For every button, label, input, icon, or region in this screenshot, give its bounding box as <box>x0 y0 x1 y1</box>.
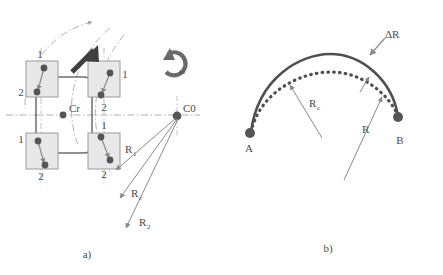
wheel-point-2-marker <box>98 92 105 99</box>
wheel-point-2-label: 2 <box>18 86 24 98</box>
radius-outer-label: R 2 <box>139 216 151 231</box>
radius-inner-label: R 1 <box>125 143 137 158</box>
arc-commanded-subscript: c <box>317 104 320 112</box>
wheel-front-left: 1 2 <box>18 48 58 98</box>
wheel-point-2-label: 2 <box>38 170 44 182</box>
wheel-point-1-marker <box>41 65 48 72</box>
arc-actual-label: R <box>362 123 370 135</box>
wheel-point-2-label: 2 <box>101 168 107 180</box>
arc-commanded-label: R c <box>309 97 320 112</box>
wheel-point-1-marker <box>107 70 114 77</box>
radius-center-letter: R <box>131 187 139 199</box>
arc-commanded-letter: R <box>309 97 317 109</box>
wheel-point-1-label: 1 <box>122 68 128 80</box>
radius-inner-letter: R <box>125 143 133 155</box>
wheel-box <box>88 61 120 97</box>
angular-velocity-label: ω <box>179 66 185 76</box>
point-b-marker <box>393 112 403 122</box>
radius-outer-letter: R <box>139 216 147 228</box>
wheel-point-2-marker <box>107 157 114 164</box>
center-of-rotation-label: C0 <box>183 102 196 114</box>
wheel-point-2-marker <box>42 162 49 169</box>
radius-outer-line <box>126 119 178 228</box>
technical-diagram-svg: 1 2 1 2 1 2 <box>0 0 443 275</box>
point-b-label: B <box>396 134 403 146</box>
vehicle-center-label: Cr <box>69 102 80 114</box>
panel-b: A B R c R ΔR b) <box>245 28 404 255</box>
point-a-label: A <box>245 142 253 154</box>
arc-actual-path <box>251 54 398 132</box>
radius-center-label: R c <box>131 187 142 202</box>
radius-inner-subscript: 1 <box>133 150 137 158</box>
wheel-point-1-label: 1 <box>18 133 24 145</box>
wheel-point-1-label: 1 <box>37 48 43 60</box>
wheel-rear-left: 1 2 <box>18 133 58 182</box>
wheel-rear-right: 1 2 <box>88 119 120 180</box>
vehicle-center-marker <box>60 112 67 119</box>
arc-actual-leader <box>344 97 382 180</box>
panel-a: 1 2 1 2 1 2 <box>6 22 200 261</box>
radius-delta-label: ΔR <box>385 28 400 40</box>
radius-center-subscript: c <box>139 194 142 202</box>
wheel-point-2-label: 2 <box>101 101 107 113</box>
radius-vectors <box>116 118 178 228</box>
wheel-point-2-marker <box>34 89 41 96</box>
point-a-marker <box>245 128 255 138</box>
radius-delta-leader <box>370 38 385 55</box>
radius-outer-subscript: 2 <box>147 223 151 231</box>
panel-a-caption: a) <box>83 248 92 261</box>
figure-container: 1 2 1 2 1 2 <box>0 0 443 275</box>
wheel-point-1-marker <box>98 134 105 141</box>
wheel-front-right: 1 2 <box>88 61 128 113</box>
wheel-point-1-marker <box>35 138 42 145</box>
panel-b-caption: b) <box>323 242 333 255</box>
wheel-point-1-label: 1 <box>101 119 107 131</box>
